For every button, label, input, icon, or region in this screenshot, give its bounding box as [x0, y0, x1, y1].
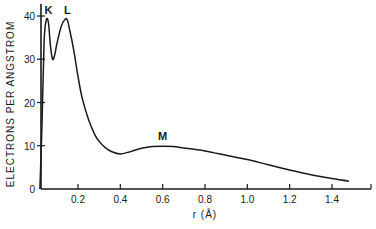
x-tick-label: 0.6	[156, 194, 170, 205]
x-tick-label: 0.2	[71, 194, 85, 205]
x-tick-label: 1.0	[240, 194, 254, 205]
axes	[41, 4, 371, 189]
data-line	[40, 18, 349, 189]
y-tick-label: 40	[24, 11, 36, 22]
x-tick-label: 0.8	[198, 194, 212, 205]
peak-label-l: L	[64, 4, 71, 16]
peak-annotations: KLM	[44, 4, 167, 141]
y-axis-title: ELECTRONS PER ANGSTROM	[5, 21, 16, 187]
x-tick-label: 0.4	[113, 194, 127, 205]
x-tick-label: 1.2	[283, 194, 297, 205]
x-tick-label: 1.4	[325, 194, 339, 205]
x-axis-title: r (Å)	[193, 208, 217, 220]
peak-label-m: M	[158, 130, 167, 142]
chart: 0.20.40.60.81.01.21.4010203040 KLM r (Å)…	[0, 0, 376, 229]
y-tick-label: 10	[24, 141, 36, 152]
peak-label-k: K	[44, 4, 52, 16]
y-tick-label: 0	[29, 184, 35, 195]
y-tick-label: 20	[24, 98, 36, 109]
y-tick-label: 30	[24, 54, 36, 65]
